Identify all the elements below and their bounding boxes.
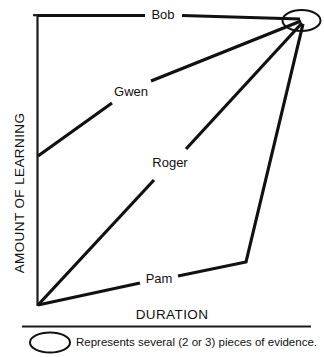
legend-note-text: Represents several (2 or 3) pieces of ev… xyxy=(76,336,317,348)
legend-ellipse-swatch xyxy=(30,333,70,353)
legend-group: Represents several (2 or 3) pieces of ev… xyxy=(30,333,317,353)
series-label-gwen: Gwen xyxy=(114,84,148,99)
series-label-pam: Pam xyxy=(146,271,173,286)
series-gwen-segment-lower xyxy=(38,103,112,156)
series-roger-segment-lower xyxy=(38,180,154,305)
chart-canvas: Bob Gwen Roger Pam AMOUNT OF LEARNING DU… xyxy=(0,0,324,357)
series-gwen-segment-upper xyxy=(151,21,301,81)
learning-curves-figure: Bob Gwen Roger Pam AMOUNT OF LEARNING DU… xyxy=(0,0,324,357)
series-label-bob: Bob xyxy=(151,7,174,22)
y-axis-title: AMOUNT OF LEARNING xyxy=(12,113,27,274)
series-label-roger: Roger xyxy=(152,155,188,170)
series-gwen xyxy=(38,21,301,156)
series-roger-segment-upper xyxy=(186,23,302,149)
axis-group xyxy=(33,14,42,306)
x-axis-title: DURATION xyxy=(136,307,209,322)
